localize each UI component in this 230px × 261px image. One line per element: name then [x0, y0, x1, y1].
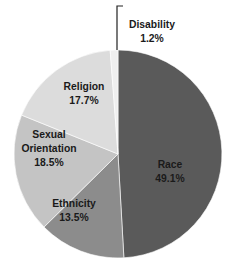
disability-leader-line [117, 6, 123, 50]
label-religion: Religion 17.7% [57, 79, 111, 107]
pie-slice-race [118, 50, 222, 258]
label-sexual-orientation-name2: Orientation [17, 141, 82, 155]
label-disability: Disability 1.2% [125, 17, 179, 45]
label-ethnicity-pct: 13.5% [47, 210, 101, 224]
label-sexual-orientation-name1: Sexual [17, 127, 82, 141]
label-ethnicity: Ethnicity 13.5% [47, 196, 101, 224]
label-religion-name: Religion [57, 79, 111, 93]
label-race-name: Race [143, 157, 197, 171]
label-sexual-orientation-pct: 18.5% [17, 155, 82, 169]
label-religion-pct: 17.7% [57, 93, 111, 107]
label-disability-pct: 1.2% [125, 31, 179, 45]
label-ethnicity-name: Ethnicity [47, 196, 101, 210]
label-sexual-orientation: Sexual Orientation 18.5% [17, 127, 82, 169]
label-disability-name: Disability [125, 17, 179, 31]
label-race-pct: 49.1% [143, 171, 197, 185]
label-race: Race 49.1% [143, 157, 197, 185]
